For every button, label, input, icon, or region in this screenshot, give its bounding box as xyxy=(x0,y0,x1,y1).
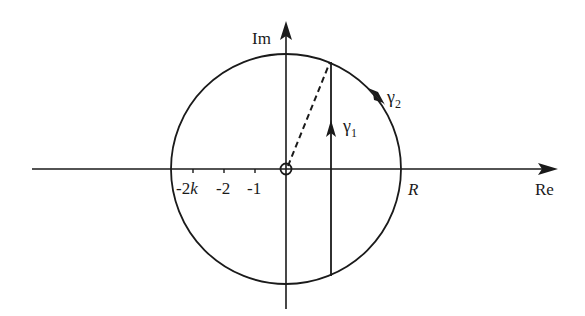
dashed-segment xyxy=(288,62,330,166)
tick-label-neg-2: -2 xyxy=(216,179,230,198)
imag-axis-label: Im xyxy=(252,29,271,48)
radius-label: R xyxy=(407,180,419,199)
tick-label-neg-2k: -2k xyxy=(176,179,198,198)
real-axis xyxy=(32,163,558,175)
gamma2-label: γ2 xyxy=(386,87,401,111)
gamma1-label: γ1 xyxy=(342,116,357,140)
real-axis-label: Re xyxy=(535,180,554,199)
complex-plane-diagram: Im Re R -2k -2 -1 γ1 γ2 xyxy=(0,0,585,316)
tick-label-neg-1: -1 xyxy=(247,179,261,198)
